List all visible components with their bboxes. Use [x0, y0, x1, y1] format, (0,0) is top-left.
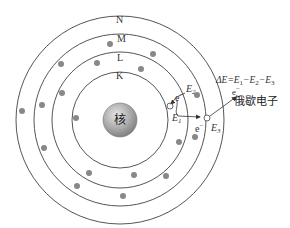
vacancy-e3	[204, 115, 210, 121]
shell-label-n: N	[116, 15, 123, 25]
k-shell-electrons	[73, 115, 79, 121]
electron-label-top: e−	[175, 92, 183, 103]
shell-label-m: M	[117, 34, 126, 44]
energy-label-e2: E2	[186, 84, 196, 96]
nucleus-label: 核	[114, 114, 126, 126]
auger-electron-label: 俄歇电子	[234, 96, 278, 107]
vacancy-e1	[167, 103, 173, 109]
energy-label-e1: E1	[172, 113, 182, 125]
shell-label-k: K	[116, 71, 123, 81]
n-shell-electrons	[19, 108, 25, 114]
auger-electron-arrow	[210, 97, 236, 116]
atom-diagram	[0, 0, 290, 228]
energy-label-e3: E3	[211, 123, 221, 135]
shell-label-l: L	[117, 53, 123, 63]
electron-label-bottom: e−	[195, 123, 203, 134]
energy-equation: ΔE=E1−E2−E3	[216, 76, 275, 87]
